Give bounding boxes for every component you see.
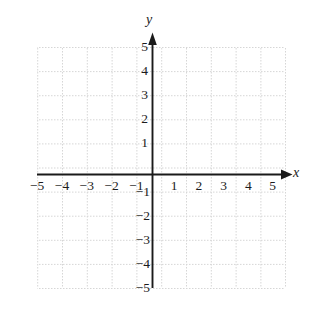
x-tick-label-5: 5 bbox=[269, 179, 276, 193]
x-tick-label-2: 2 bbox=[195, 179, 202, 193]
x-tick-label-neg4: −4 bbox=[55, 179, 69, 193]
x-tick-label-4: 4 bbox=[245, 179, 252, 193]
y-axis-arrowhead-icon bbox=[148, 33, 157, 46]
x-tick-label-neg5: −5 bbox=[30, 179, 44, 193]
y-tick-label-neg1: −1 bbox=[136, 185, 150, 199]
y-axis-line bbox=[148, 33, 157, 289]
x-tick-label-neg3: −3 bbox=[80, 179, 94, 193]
x-axis-label: x bbox=[293, 166, 299, 180]
x-tick-label-3: 3 bbox=[220, 179, 227, 193]
y-tick-label-5: 5 bbox=[141, 40, 148, 54]
y-tick-label-2: 2 bbox=[141, 113, 148, 127]
x-axis-arrowhead-icon bbox=[281, 170, 293, 180]
y-tick-label-neg4: −4 bbox=[136, 257, 150, 271]
x-tick-label-1: 1 bbox=[171, 179, 178, 193]
grid-horizontal-lines bbox=[37, 47, 285, 289]
y-tick-label-neg5: −5 bbox=[136, 281, 150, 295]
x-axis-line bbox=[37, 170, 293, 180]
coordinate-plane-svg bbox=[0, 0, 309, 313]
coordinate-grid-figure: x y −5 −4 −3 −2 −1 1 2 3 4 5 5 4 3 2 1 −… bbox=[0, 0, 309, 313]
y-axis-label: y bbox=[146, 13, 152, 27]
y-tick-label-1: 1 bbox=[141, 137, 148, 151]
y-tick-label-neg3: −3 bbox=[136, 233, 150, 247]
y-tick-label-neg2: −2 bbox=[136, 209, 150, 223]
y-tick-label-3: 3 bbox=[141, 88, 148, 102]
x-tick-label-neg2: −2 bbox=[104, 179, 118, 193]
y-tick-label-4: 4 bbox=[141, 64, 148, 78]
